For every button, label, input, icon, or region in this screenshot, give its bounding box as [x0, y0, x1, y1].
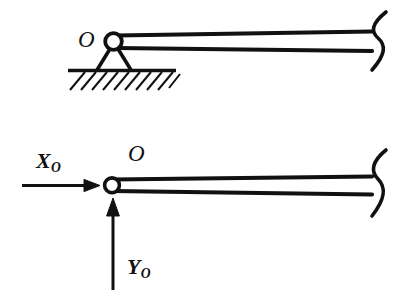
upper-beam-top-rail: [116, 32, 372, 36]
upper-diagram-group: [68, 12, 386, 90]
y-reaction-arrow-head: [107, 198, 120, 216]
label-x-symbol: X: [36, 148, 51, 173]
ground-hatching: [70, 72, 180, 90]
upper-beam-break-symbol: [372, 12, 386, 70]
free-body-pin-circle: [105, 178, 120, 193]
label-point-o-upper: O: [78, 28, 95, 51]
label-point-o-lower: O: [128, 142, 145, 165]
upper-beam-bottom-rail: [116, 48, 372, 51]
label-y-reaction: YO: [127, 256, 150, 278]
pin-hinge-circle: [105, 33, 122, 50]
lower-beam-top-rail: [112, 177, 372, 180]
figure-canvas: O O XO YO: [0, 0, 408, 299]
lower-diagram-group: [22, 150, 386, 290]
label-x-reaction: XO: [36, 150, 61, 172]
lower-beam-break-symbol: [372, 150, 386, 216]
label-y-subscript: O: [141, 266, 151, 281]
x-reaction-arrow-head: [84, 179, 100, 191]
label-x-subscript: O: [51, 160, 61, 175]
label-y-symbol: Y: [127, 254, 140, 279]
lower-beam-bottom-rail: [112, 191, 372, 195]
diagram-vector-layer: [0, 0, 408, 299]
